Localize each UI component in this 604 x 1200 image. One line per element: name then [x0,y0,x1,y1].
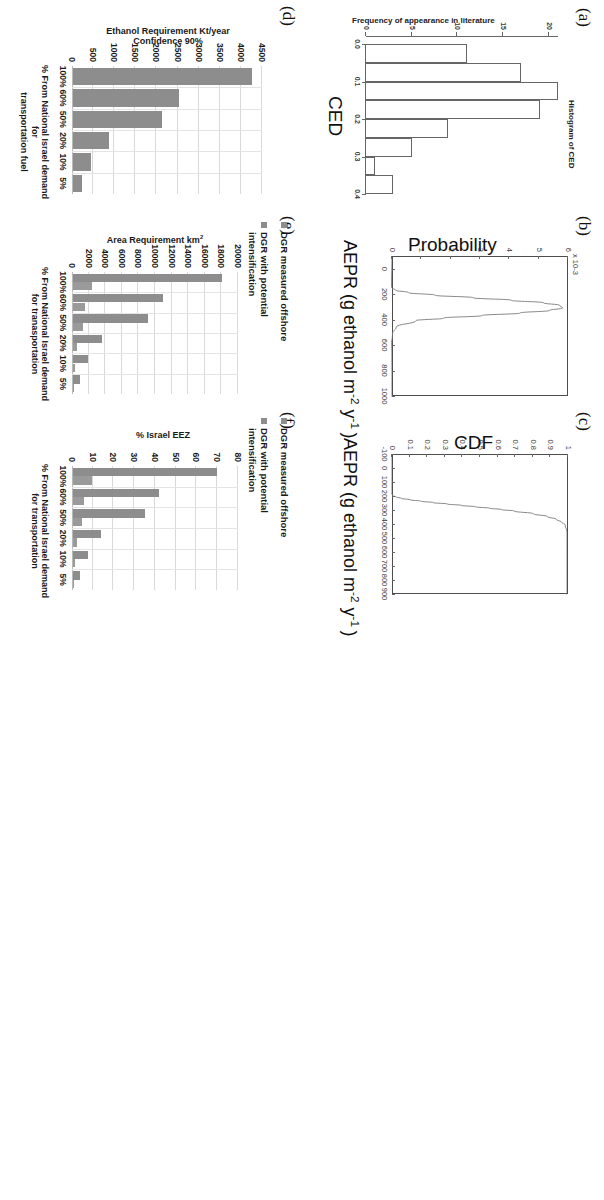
x-tick-label: 200 [380,490,389,503]
y-tick-label: 20 [545,22,552,30]
y-tick-mark [365,32,366,36]
bar [73,294,163,302]
bar [73,355,88,363]
panel-f-ylabel: % Israel EEZ [88,430,238,440]
x-tick-mark [392,269,395,270]
panel-d-chart: 050010001500200025003000350040004500 100… [0,0,304,212]
y-tick-mark [567,256,568,259]
y-tick-mark [411,32,412,36]
y-tick-mark [549,454,550,457]
x-tick-mark [392,371,395,372]
panel-d-plot [72,66,262,194]
y-tick-label: 80 [233,453,243,462]
y-tick-label: 5 [534,248,543,252]
panel-c-xlabel: AEPR (g ethanol m-2 y-1 ) [339,438,362,637]
x-tick-label: 500 [380,532,389,545]
y-tick-mark [497,454,498,457]
y-tick-label: 5 [408,26,415,30]
panel-c: (c) -100010020030040050060070080090000.1… [304,408,604,604]
panel-f: (f) DGR measured offshore DGR with poten… [0,408,304,604]
panel-a-xlabel: CED [324,96,346,136]
y-tick-label: 0.1 [405,440,414,450]
legend-label: DGR measured offshore [279,428,290,537]
bar [73,303,85,311]
histogram-bar [366,138,412,157]
category-label: 20% [58,335,68,352]
category-label: 50% [58,111,68,128]
histogram-bar [366,175,393,194]
panel-b-axes [392,256,568,396]
y-tick-label: 70 [212,453,222,462]
bar [73,364,75,372]
category-separator [72,549,238,550]
bar [73,175,82,192]
x-tick-mark [362,82,366,83]
category-separator [72,130,262,131]
category-label: 10% [58,550,68,567]
y-tick-label: 1 [564,446,573,450]
category-label: 60% [58,488,68,505]
x-tick-label: 300 [380,504,389,517]
category-separator [72,528,238,529]
y-tick-label: 0 [388,446,397,450]
panel-b-curve [393,257,567,395]
category-label: 10% [58,355,68,372]
y-tick-mark [391,256,392,259]
bar [73,343,77,351]
histogram-bar [366,82,558,101]
x-tick-mark [392,482,395,483]
bar [73,375,80,383]
bar [73,323,83,331]
y-tick-label: 0.9 [546,440,555,450]
bar [73,282,93,290]
x-tick-label: 0.3 [354,152,361,162]
category-separator [72,87,262,88]
bar [73,132,109,149]
category-separator [72,569,238,570]
y-tick-mark [444,454,445,457]
category-label: 50% [58,509,68,526]
bar [73,384,75,392]
panel-e: (e) DGR measured offshore DGR with poten… [0,212,304,408]
y-tick-mark [456,32,457,36]
panel-b: (b) x 10-3 020040060080010000123456 Prob… [304,212,604,408]
y-tick-label: 0 [67,457,77,462]
x-tick-mark [392,510,395,511]
y-tick-label: 0 [388,248,397,252]
x-tick-mark [362,157,366,158]
panel-a: (a) Histogram of CED Frequency of appear… [304,0,604,212]
y-tick-label: 10000 [150,244,160,268]
y-tick-label: 6 [564,248,573,252]
x-tick-label: 0.0 [354,39,361,49]
y-tick-label: 2000 [84,249,94,268]
category-label: 100% [58,465,68,487]
y-tick-label: 4 [505,248,514,252]
histogram-bar [366,157,375,176]
y-tick-label: 14000 [183,244,193,268]
y-tick-mark [538,256,539,259]
x-tick-mark [392,496,395,497]
x-tick-label: 700 [380,560,389,573]
panel-b-ylabel: Probability [408,234,497,256]
x-tick-label: 400 [380,313,389,326]
y-tick-mark [479,454,480,457]
x-tick-label: 1000 [380,388,389,405]
curve-path [391,455,567,595]
legend-label: DGR measured offshore [279,232,290,341]
bar [73,559,75,567]
x-tick-label: 100 [380,476,389,489]
x-tick-mark [392,552,395,553]
x-tick-mark [392,454,395,455]
legend-swatch [281,222,287,228]
y-tick-mark [548,32,549,36]
x-tick-label: 200 [380,288,389,301]
y-tick-label: 20 [109,453,119,462]
bar [73,68,252,85]
y-tick-label: 6000 [117,249,127,268]
panel-e-ylabel: Area Requirement km2 [72,234,238,245]
x-tick-label: 800 [380,364,389,377]
x-tick-mark [362,194,366,195]
legend-swatch [261,222,267,228]
y-tick-mark [426,454,427,457]
category-label: 100% [58,66,68,88]
